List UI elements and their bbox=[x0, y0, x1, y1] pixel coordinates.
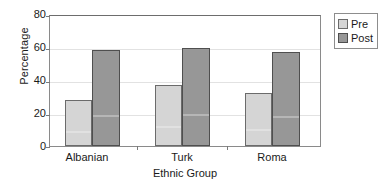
bar-albanian-post bbox=[92, 50, 120, 146]
y-tick-label-60: 60 bbox=[24, 42, 46, 53]
y-tick-label-80: 80 bbox=[24, 9, 46, 20]
plot-area bbox=[49, 15, 321, 147]
legend-swatch-pre-icon bbox=[338, 19, 348, 29]
legend-item-post: Post bbox=[338, 31, 373, 45]
y-tick-mark-80 bbox=[46, 16, 50, 17]
y-axis-tick-labels: 0 20 40 60 80 bbox=[22, 0, 46, 189]
bar-albanian-pre bbox=[65, 100, 92, 146]
bar-turk-pre bbox=[155, 85, 182, 146]
bar-band bbox=[156, 126, 181, 128]
y-tick-mark-20 bbox=[46, 115, 50, 116]
y-tick-label-40: 40 bbox=[24, 75, 46, 86]
y-tick-mark-60 bbox=[46, 49, 50, 50]
x-tick-label-turk: Turk bbox=[152, 151, 212, 163]
bar-band bbox=[183, 114, 209, 116]
bar-turk-post bbox=[182, 48, 210, 146]
bar-roma-post bbox=[272, 52, 300, 146]
bar-band bbox=[93, 115, 119, 117]
y-tick-mark-40 bbox=[46, 82, 50, 83]
bar-band bbox=[66, 131, 91, 133]
x-tick-mark-1 bbox=[137, 146, 138, 150]
bar-band bbox=[246, 129, 271, 131]
x-tick-mark-2 bbox=[227, 146, 228, 150]
bar-chart-figure: Percentage 0 20 40 60 80 bbox=[0, 0, 380, 189]
chart-legend: Pre Post bbox=[334, 13, 378, 49]
legend-label-pre: Pre bbox=[351, 19, 368, 30]
x-tick-label-roma: Roma bbox=[242, 151, 302, 163]
bar-band bbox=[273, 116, 299, 118]
y-tick-mark-0 bbox=[46, 147, 50, 148]
legend-item-pre: Pre bbox=[338, 17, 373, 31]
legend-label-post: Post bbox=[351, 33, 373, 44]
legend-swatch-post-icon bbox=[338, 33, 348, 43]
y-tick-label-0: 0 bbox=[24, 141, 46, 152]
y-tick-label-20: 20 bbox=[24, 108, 46, 119]
x-axis-title: Ethnic Group bbox=[49, 167, 321, 179]
plot-inner bbox=[50, 16, 320, 146]
bar-roma-pre bbox=[245, 93, 272, 146]
x-tick-label-albanian: Albanian bbox=[57, 151, 117, 163]
